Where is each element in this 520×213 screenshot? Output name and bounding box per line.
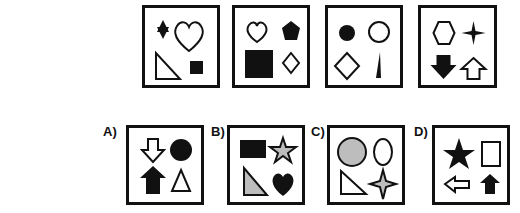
question-panel-2 — [232, 5, 310, 88]
arrow-up-filled-icon — [140, 166, 166, 194]
answer-option-a[interactable] — [126, 125, 204, 205]
answer-option-b[interactable] — [227, 125, 305, 205]
question-panel-4 — [418, 5, 497, 88]
heart-outline-icon — [248, 22, 267, 42]
square-filled-icon — [245, 50, 273, 78]
answer-label-c: C) — [311, 124, 325, 139]
ellipse-outline-icon — [374, 139, 392, 165]
question-panel-3 — [325, 5, 403, 88]
circle-outline-icon — [369, 22, 389, 42]
answer-label-a: A) — [103, 124, 117, 139]
pentagon-filled-icon — [282, 21, 300, 40]
answer-option-d[interactable] — [432, 125, 510, 205]
triangle-outline-icon — [172, 170, 190, 191]
hexagon-outline-icon — [434, 22, 455, 44]
diamond-outline-icon — [335, 53, 359, 79]
question-panel-1 — [142, 5, 220, 88]
right-triangle-outline-icon — [341, 171, 366, 194]
thin-triangle-filled-icon — [376, 52, 381, 78]
rectangle-filled-icon — [240, 140, 266, 158]
star-filled-icon — [443, 138, 475, 169]
rectangle-outline-icon — [482, 142, 500, 166]
arrow-up-filled-icon — [480, 174, 500, 194]
arrow-down-outline-icon — [142, 139, 164, 162]
circle-filled-icon — [339, 25, 355, 41]
square-filled-icon — [190, 61, 203, 74]
heart-outline-icon — [175, 22, 203, 51]
arrow-up-outline-icon — [462, 58, 486, 79]
star-gray-icon — [270, 138, 296, 162]
diamond-outline-icon — [283, 53, 299, 73]
heart-filled-icon — [273, 173, 294, 196]
circle-gray-icon — [338, 138, 366, 166]
arrow-down-filled-icon — [431, 55, 457, 79]
right-triangle-outline-icon — [156, 53, 180, 79]
four-point-star-filled-icon — [462, 21, 486, 45]
four-point-star-gray-icon — [370, 170, 396, 199]
star-of-david-icon — [157, 20, 169, 39]
answer-option-c[interactable] — [327, 125, 405, 205]
arrow-left-outline-icon — [445, 177, 469, 192]
answer-label-b: B) — [211, 124, 225, 139]
circle-filled-icon — [170, 139, 192, 161]
right-triangle-gray-icon — [244, 168, 267, 195]
answer-label-d: D) — [414, 124, 428, 139]
